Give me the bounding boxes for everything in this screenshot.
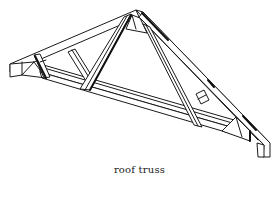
web-right-outer bbox=[196, 90, 209, 104]
bottom-chord bbox=[40, 64, 248, 138]
figure-caption: roof truss bbox=[0, 164, 279, 175]
top-chord-left bbox=[10, 10, 139, 78]
